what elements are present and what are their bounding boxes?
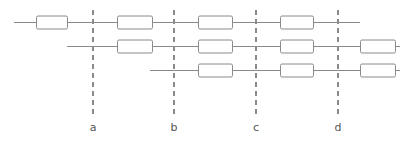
block-2-4 [361,40,396,53]
block-2-2 [199,40,233,53]
block-2-3 [281,40,314,53]
block-1-3 [199,16,233,29]
block-3-1 [199,64,233,77]
block-3-2 [281,64,314,77]
block-3-3 [361,64,396,77]
track-2 [67,40,400,53]
marker-b-label: b [171,121,178,134]
marker-labels-group: abcd [90,121,342,134]
marker-a-label: a [90,121,97,134]
block-1-2 [118,16,153,29]
tracks-group [14,16,400,77]
track-1 [14,16,360,29]
track-3 [150,64,400,77]
block-1-1 [37,16,68,29]
block-1-4 [281,16,314,29]
marker-c-label: c [253,121,259,134]
diagram-canvas: abcd [0,0,412,144]
segmented-track-diagram: abcd [0,0,412,144]
marker-d-label: d [335,121,342,134]
block-2-1 [118,40,153,53]
